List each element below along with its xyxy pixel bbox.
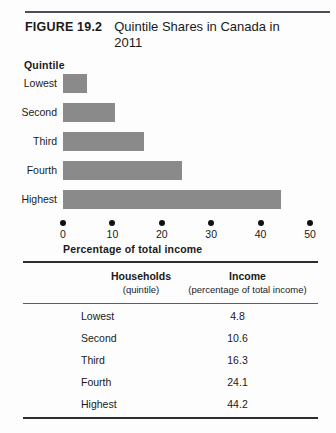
bar: [63, 161, 182, 180]
table-header-rule: [23, 303, 318, 304]
table-cell-household: Lowest: [81, 307, 114, 326]
x-axis-tick-label: 40: [249, 228, 273, 240]
top-divider: [25, 11, 330, 13]
table-cell-household: Fourth: [81, 373, 111, 392]
bar: [63, 132, 144, 151]
bar-category-label: Fourth: [0, 161, 57, 180]
bar: [63, 74, 87, 93]
x-axis-tick-label: 20: [150, 228, 174, 240]
x-axis-tick-dot: [258, 220, 264, 226]
table-cell-income: 44.2: [200, 395, 275, 414]
x-axis-tick-dot: [60, 220, 66, 226]
table-top-rule: [23, 261, 318, 263]
x-axis-tick-label: 0: [51, 228, 75, 240]
bar-category-label: Second: [0, 103, 57, 122]
bar-category-label: Lowest: [0, 74, 57, 93]
column-header-subtitle: (percentage of total income): [175, 283, 320, 296]
x-axis-tick-label: 30: [199, 228, 223, 240]
table-bottom-rule: [23, 417, 318, 419]
bar-row: Second: [0, 103, 336, 122]
table-cell-household: Highest: [81, 395, 117, 414]
table-cell-household: Third: [81, 351, 105, 370]
bar-category-label: Third: [0, 132, 57, 151]
x-axis-tick-dot: [109, 220, 115, 226]
x-axis-tick-dot: [208, 220, 214, 226]
column-header-title: Income: [175, 270, 320, 283]
figure-heading: FIGURE 19.2 Quintile Shares in Canada in…: [25, 19, 325, 51]
table-header: Households(quintile)Income(percentage of…: [0, 270, 336, 296]
table-row: Highest44.2: [0, 395, 336, 414]
x-axis-title: Percentage of total income: [63, 243, 202, 255]
figure-number: FIGURE 19.2: [25, 19, 102, 34]
table-cell-income: 16.3: [200, 351, 275, 370]
y-axis-title: Quintile: [24, 59, 65, 71]
bar-row: Lowest: [0, 74, 336, 93]
table-row: Lowest4.8: [0, 307, 336, 326]
bar: [63, 103, 115, 122]
x-axis-tick-labels: 01020304050: [0, 228, 336, 241]
x-axis-tick-label: 10: [100, 228, 124, 240]
bar: [63, 190, 281, 209]
bar-row: Highest: [0, 190, 336, 209]
bar-chart: LowestSecondThirdFourthHighest: [0, 74, 336, 224]
table-column-header: Income(percentage of total income): [175, 270, 320, 296]
x-axis-tick-label: 50: [298, 228, 322, 240]
table-row: Second10.6: [0, 329, 336, 348]
bar-category-label: Highest: [0, 190, 57, 209]
table-cell-income: 10.6: [200, 329, 275, 348]
x-axis-tick-dot: [307, 220, 313, 226]
table-cell-income: 24.1: [200, 373, 275, 392]
bar-row: Third: [0, 132, 336, 151]
x-axis-tick-dot: [159, 220, 165, 226]
figure-title: Quintile Shares in Canada in 2011: [114, 19, 309, 51]
bar-row: Fourth: [0, 161, 336, 180]
table-cell-income: 4.8: [200, 307, 275, 326]
table-row: Fourth24.1: [0, 373, 336, 392]
figure-page: FIGURE 19.2 Quintile Shares in Canada in…: [0, 0, 336, 433]
table-row: Third16.3: [0, 351, 336, 370]
table-cell-household: Second: [81, 329, 117, 348]
